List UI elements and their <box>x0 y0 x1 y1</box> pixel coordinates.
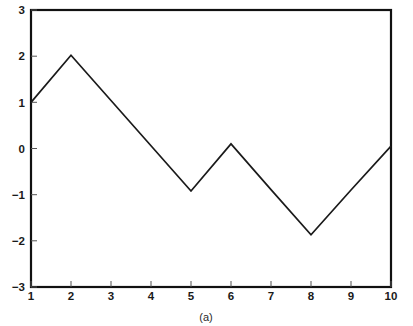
figure-caption: (a) <box>199 311 212 323</box>
y-tick-label: 2 <box>19 50 25 62</box>
x-tick-label: 3 <box>108 290 114 302</box>
x-tick-label: 4 <box>148 290 155 302</box>
x-tick-label: 8 <box>308 290 315 302</box>
y-tick-label: −3 <box>12 281 25 293</box>
y-tick-label: −1 <box>12 189 26 201</box>
x-tick-label: 1 <box>28 290 35 302</box>
x-tick-label: 6 <box>228 290 234 302</box>
x-tick-label: 10 <box>385 290 398 302</box>
y-tick-label: 0 <box>19 143 25 155</box>
y-tick-label: 1 <box>19 97 26 109</box>
x-tick-label: 2 <box>68 290 74 302</box>
x-tick-label: 5 <box>188 290 195 302</box>
x-tick-label: 9 <box>348 290 354 302</box>
line-chart: 3 2 1 0 −1 −2 −3 1 2 3 4 5 6 7 8 9 10 (a… <box>0 0 413 326</box>
figure-container: 3 2 1 0 −1 −2 −3 1 2 3 4 5 6 7 8 9 10 (a… <box>0 0 413 326</box>
y-tick-label: 3 <box>19 4 25 16</box>
chart-background <box>0 0 413 326</box>
y-tick-label: −2 <box>12 235 25 247</box>
x-tick-label: 7 <box>268 290 274 302</box>
